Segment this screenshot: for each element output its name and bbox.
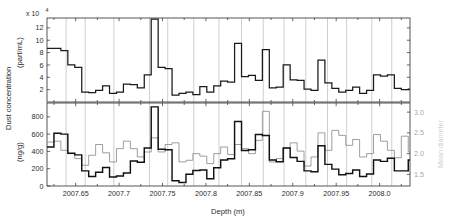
x-tick-label: 2007.8 <box>195 189 217 198</box>
y-tick-label-right: 2.5 <box>414 128 424 137</box>
ylabel-top-units: (part/mL) <box>15 37 24 68</box>
trace-mean-diameter <box>47 111 410 166</box>
exponent-power: 4 <box>46 7 49 13</box>
ylabel-main: Dust concentration <box>4 67 13 130</box>
xlabel: Depth (m) <box>211 207 245 216</box>
panel-top-concentration: 24681012 <box>36 18 411 102</box>
y-tick-label-right: 3.0 <box>414 108 424 117</box>
y-tick-label: 10 <box>36 36 44 45</box>
dust-concentration-figure: x 10 4 Dust concentration (part/mL) (ng/… <box>0 0 456 220</box>
y-tick-label: 4 <box>40 73 44 82</box>
y-tick-label: 600 <box>32 130 44 139</box>
x-tick-label: 2007.65 <box>63 189 89 198</box>
y-tick-label: 12 <box>36 23 44 32</box>
x-tick-label: 2007.9 <box>282 189 304 198</box>
ylabel-right: Mean diameter <box>436 119 445 168</box>
ylabel-bottom-units: (ng/g) <box>15 142 24 162</box>
top-axis-exponent: x 10 4 <box>26 7 49 18</box>
y-tick-label: 6 <box>40 61 44 70</box>
exponent-base: x 10 <box>26 10 39 17</box>
y-tick-label: 800 <box>32 112 44 121</box>
x-tick-label: 2007.7 <box>108 189 130 198</box>
x-tick-label: 2007.75 <box>150 189 176 198</box>
y-tick-label: 8 <box>40 48 44 57</box>
y-tick-label-right: 2.0 <box>414 149 424 158</box>
x-tick-label: 2007.95 <box>323 189 349 198</box>
y-tick-label-right: 1.5 <box>414 170 424 179</box>
y-tick-label: 400 <box>32 147 44 156</box>
x-tick-label: 2007.85 <box>236 189 262 198</box>
plot-canvas: x 10 4 Dust concentration (part/mL) (ng/… <box>0 0 456 220</box>
trace-particle-concentration <box>47 19 410 95</box>
panel-bottom-mass-diameter: 2007.652007.72007.752007.82007.852007.92… <box>32 103 425 198</box>
x-tick-label: 2008.0 <box>369 189 391 198</box>
y-tick-label: 2 <box>40 85 44 94</box>
y-tick-label: 0 <box>40 182 44 191</box>
y-tick-label: 200 <box>32 164 44 173</box>
